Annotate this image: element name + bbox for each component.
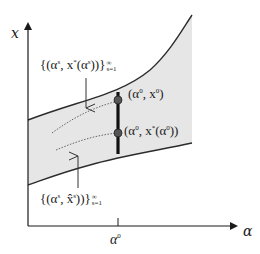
label-sub: s=1 — [106, 66, 116, 72]
x-axis-label: α — [243, 223, 253, 239]
label-part: , x̂ — [60, 191, 73, 206]
alpha0-tick-label: α0 — [110, 233, 121, 247]
label-part: ))} — [91, 57, 106, 72]
label-part: (α — [155, 123, 166, 138]
label-part: {(α — [40, 191, 57, 206]
label-part: ) — [159, 86, 163, 101]
label-part: , x — [143, 86, 156, 101]
point-lower-label: (α0, x*(α0)) — [124, 124, 178, 137]
label-part: (α — [128, 86, 139, 101]
label-part: (α — [124, 123, 135, 138]
point-upper-label: (α0, x0) — [128, 87, 163, 100]
label-part: )) — [170, 123, 179, 138]
label-part: (α — [77, 57, 88, 72]
label-part: , x — [139, 123, 152, 138]
superscript: 0 — [117, 232, 121, 240]
lower-sequence-label: {(αs, x̂s))}∞s=1 — [40, 192, 102, 206]
label-sub: s=1 — [92, 200, 102, 206]
point-alpha0-xstar — [114, 129, 122, 137]
label-part: {(α — [40, 57, 57, 72]
y-axis-label: x — [11, 25, 19, 41]
upper-sequence-label: {(αs, x*(αs))}∞s=1 — [40, 58, 117, 72]
label-part: ))} — [76, 191, 91, 206]
label-part: , x — [60, 57, 73, 72]
point-alpha0-x0 — [114, 96, 122, 104]
